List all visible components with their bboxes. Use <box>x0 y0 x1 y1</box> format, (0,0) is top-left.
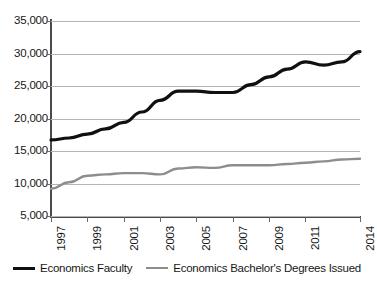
x-axis-tick-label: 2003 <box>165 226 177 251</box>
legend-label: Economics Faculty <box>40 262 132 274</box>
legend-line-swatch-icon <box>13 267 35 270</box>
y-axis-tick-label: 10,000 <box>0 178 48 190</box>
legend-item[interactable]: Economics Faculty <box>13 262 132 274</box>
y-axis-tick-label: 30,000 <box>0 48 48 60</box>
x-axis-tick <box>124 217 125 222</box>
y-axis-tick-label: 35,000 <box>0 15 48 27</box>
chart-legend: Economics FacultyEconomics Bachelor's De… <box>0 262 374 274</box>
x-axis-tick <box>196 217 197 222</box>
legend-item[interactable]: Economics Bachelor's Degrees Issued <box>146 262 361 274</box>
x-axis-tick <box>51 217 52 222</box>
x-axis-tick <box>160 217 161 222</box>
gridline <box>51 216 360 217</box>
series-line-faculty <box>51 52 360 140</box>
x-axis-tick <box>360 217 361 222</box>
x-axis-tick-label: 2014 <box>365 226 377 251</box>
x-axis-tick-label: 2009 <box>274 226 286 251</box>
x-axis-tick-label: 2005 <box>201 226 213 251</box>
x-axis-tick <box>269 217 270 222</box>
y-axis-tick-label: 20,000 <box>0 113 48 125</box>
x-axis-tick <box>305 217 306 222</box>
x-axis-tick-label: 1999 <box>92 226 104 251</box>
x-axis-tick <box>233 217 234 222</box>
series-line-degrees <box>51 159 360 189</box>
y-axis-tick-label: 5,000 <box>0 210 48 222</box>
x-axis-tick-label: 2011 <box>310 226 322 250</box>
legend-label: Economics Bachelor's Degrees Issued <box>173 262 361 274</box>
y-axis-tick-label: 25,000 <box>0 80 48 92</box>
legend-line-swatch-icon <box>146 267 168 269</box>
x-axis-tick-label: 2001 <box>129 226 141 251</box>
x-axis-tick-label: 1997 <box>56 226 68 251</box>
series-lines <box>51 21 360 216</box>
x-axis-tick <box>87 217 88 222</box>
y-axis-tick-label: 15,000 <box>0 145 48 157</box>
x-axis-tick-label: 2007 <box>238 226 250 251</box>
plot-area <box>51 21 360 216</box>
